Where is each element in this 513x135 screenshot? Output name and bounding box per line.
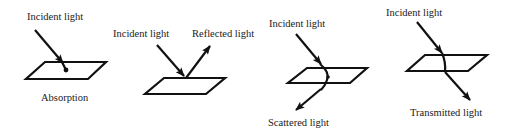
surface-plate: [407, 55, 487, 71]
incident-arrow-icon: [157, 45, 184, 76]
reflected-arrow-icon: [186, 46, 210, 78]
incident-light-label: Incident light: [386, 7, 442, 18]
incident-arrow-icon: [35, 30, 63, 63]
incident-light-label: Incident light: [27, 11, 83, 22]
surface-plate: [145, 78, 225, 94]
incident-light-label: Incident light: [269, 18, 325, 29]
absorption-point-icon: [64, 68, 69, 73]
panel-scattering: Incident light Scattered light: [268, 18, 367, 128]
light-interaction-diagram: Incident light Absorption Incident light…: [0, 0, 513, 135]
transmitted-light-label: Transmitted light: [410, 107, 482, 118]
incident-light-label: Incident light: [113, 28, 169, 39]
scattered-light-label: Scattered light: [268, 117, 329, 128]
panel-reflection: Incident light Reflected light: [113, 28, 254, 94]
incident-arrow-icon: [296, 34, 321, 64]
scattering-point-icon: [326, 75, 330, 79]
absorption-caption: Absorption: [41, 92, 89, 103]
panel-absorption: Incident light Absorption: [26, 11, 106, 103]
scattered-arrow-icon: [296, 89, 321, 110]
panel-transmission: Incident light Transmitted light: [386, 7, 487, 118]
reflected-light-label: Reflected light: [192, 28, 254, 39]
transmitted-arrow-icon: [445, 72, 470, 100]
incident-arrow-icon: [417, 22, 442, 53]
